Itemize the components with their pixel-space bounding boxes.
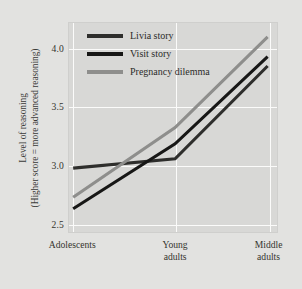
legend: Livia storyVisit storyPregnancy dilemma bbox=[87, 29, 210, 78]
y-axis-title-line1: Level of reasoning bbox=[17, 49, 29, 208]
series-line bbox=[73, 57, 267, 209]
legend-label: Visit story bbox=[130, 47, 171, 60]
legend-item[interactable]: Pregnancy dilemma bbox=[87, 65, 210, 78]
legend-swatch-icon bbox=[87, 34, 123, 38]
chart-figure: Level of reasoning (Higher score = more … bbox=[0, 0, 302, 289]
y-tick-label: 3.5 bbox=[22, 101, 64, 112]
y-tick-label: 3.0 bbox=[22, 160, 64, 171]
legend-item[interactable]: Livia story bbox=[87, 29, 210, 42]
legend-swatch-icon bbox=[87, 52, 123, 56]
y-tick-label: 2.5 bbox=[22, 218, 64, 229]
x-tick-label: Middle adults bbox=[224, 239, 302, 262]
plot-area: Livia storyVisit storyPregnancy dilemma bbox=[68, 22, 278, 233]
legend-label: Livia story bbox=[130, 29, 174, 42]
legend-label: Pregnancy dilemma bbox=[130, 65, 210, 78]
series-line bbox=[73, 66, 267, 168]
x-tick-label: Young adults bbox=[130, 239, 220, 262]
legend-swatch-icon bbox=[87, 70, 123, 74]
x-tick-label: Adolescents bbox=[27, 239, 117, 251]
y-tick-label: 4.0 bbox=[22, 42, 64, 53]
y-axis-title: Level of reasoning (Higher score = more … bbox=[4, 22, 54, 234]
legend-item[interactable]: Visit story bbox=[87, 47, 210, 60]
y-axis-title-line2: (Higher score = more advanced reasoning) bbox=[29, 49, 41, 208]
